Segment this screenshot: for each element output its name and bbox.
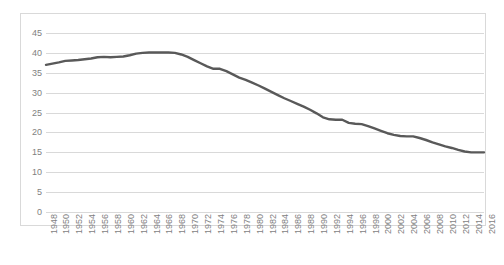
x-tick-label: 1974	[217, 214, 226, 234]
x-tick-label: 1956	[101, 214, 110, 234]
x-axis-tick-labels: 1948195019521954195619581960196219641966…	[46, 214, 484, 262]
x-tick-label: 1998	[372, 214, 381, 234]
y-tick-label: 35	[20, 68, 42, 78]
x-tick-label: 2010	[449, 214, 458, 234]
x-tick-label: 1978	[243, 214, 252, 234]
y-tick-label: 0	[20, 207, 42, 217]
y-tick-label: 5	[20, 187, 42, 197]
x-tick-label: 1988	[307, 214, 316, 234]
x-tick-label: 1980	[256, 214, 265, 234]
y-tick-label: 25	[20, 108, 42, 118]
x-tick-label: 1996	[359, 214, 368, 234]
x-tick-label: 1976	[230, 214, 239, 234]
y-tick-label: 45	[20, 28, 42, 38]
y-tick-label: 20	[20, 127, 42, 137]
x-tick-label: 1966	[165, 214, 174, 234]
x-tick-label: 2004	[410, 214, 419, 234]
x-tick-label: 1990	[320, 214, 329, 234]
y-tick-label: 40	[20, 48, 42, 58]
x-tick-label: 2006	[423, 214, 432, 234]
y-tick-label: 10	[20, 167, 42, 177]
x-tick-label: 1992	[333, 214, 342, 234]
x-tick-label: 1952	[75, 214, 84, 234]
x-tick-label: 1994	[346, 214, 355, 234]
x-tick-label: 1970	[191, 214, 200, 234]
x-tick-label: 1948	[50, 214, 59, 234]
x-tick-label: 1986	[294, 214, 303, 234]
x-tick-label: 1972	[204, 214, 213, 234]
x-tick-label: 1968	[178, 214, 187, 234]
line-chart: 454035302520151050 194819501952195419561…	[0, 0, 504, 265]
x-tick-label: 2012	[462, 214, 471, 234]
x-tick-label: 1960	[127, 214, 136, 234]
x-tick-label: 1982	[269, 214, 278, 234]
x-tick-label: 2016	[488, 214, 497, 234]
x-tick-label: 2000	[384, 214, 393, 234]
y-axis-tick-labels: 454035302520151050	[18, 33, 42, 212]
x-tick-label: 2014	[475, 214, 484, 234]
x-tick-label: 1958	[114, 214, 123, 234]
series-path	[46, 52, 484, 152]
chart-plot-area	[46, 33, 484, 212]
x-tick-label: 1954	[88, 214, 97, 234]
x-tick-label: 1984	[281, 214, 290, 234]
x-tick-label: 1950	[62, 214, 71, 234]
data-series-line	[46, 33, 484, 212]
y-tick-label: 30	[20, 88, 42, 98]
x-tick-label: 1962	[140, 214, 149, 234]
x-tick-label: 1964	[153, 214, 162, 234]
x-tick-label: 2008	[436, 214, 445, 234]
y-tick-label: 15	[20, 147, 42, 157]
x-tick-label: 2002	[397, 214, 406, 234]
